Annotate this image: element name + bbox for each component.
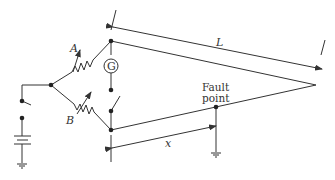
label-g: G	[107, 60, 116, 73]
dimension-x	[112, 126, 216, 148]
node	[109, 128, 114, 133]
node	[109, 109, 114, 114]
resistor-a	[51, 41, 111, 85]
node	[49, 83, 54, 88]
fault-point-node	[214, 105, 219, 110]
node	[109, 39, 114, 44]
label-a: A	[69, 42, 78, 55]
label-l: L	[215, 36, 223, 49]
node	[109, 88, 114, 93]
label-x: x	[165, 137, 172, 150]
label-b: B	[65, 114, 74, 127]
node	[20, 99, 25, 104]
galvanometer-branch	[104, 41, 120, 130]
node	[20, 116, 25, 121]
resistor-b	[51, 85, 111, 130]
label-point: point	[202, 92, 230, 104]
right-end-tick	[321, 40, 325, 55]
circuit-diagram: A B G L x Fault point	[0, 0, 335, 180]
battery-branch	[14, 85, 51, 168]
bridge-switch	[111, 96, 120, 111]
